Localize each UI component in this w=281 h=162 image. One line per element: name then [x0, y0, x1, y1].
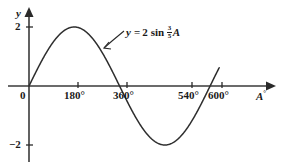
- y-axis-label: y: [16, 8, 21, 19]
- x-axis-degree-symbol: °: [263, 89, 266, 97]
- equation-equals: =: [134, 27, 140, 38]
- fraction-numerator: 3: [167, 25, 173, 32]
- equation-function: sin: [151, 27, 164, 38]
- fraction-denominator: 5: [167, 32, 173, 40]
- x-axis-arrow-icon: [266, 82, 276, 91]
- x-axis-label: A°: [256, 90, 266, 102]
- equation-lhs: y: [126, 27, 131, 38]
- x-tick-label-540: 540°: [178, 90, 199, 101]
- equation-annotation: y = 2 sin 3 5 A: [126, 25, 180, 40]
- sine-graph-figure: y 2 −2 0 180° 360° 540° 600° A° y = 2 si…: [0, 0, 281, 162]
- x-tick-label-600: 600°: [208, 90, 229, 101]
- x-tick-label-180: 180°: [64, 90, 85, 101]
- x-tick-label-360: 360°: [113, 90, 134, 101]
- equation-amplitude: 2: [142, 27, 148, 38]
- y-axis-arrow-icon: [25, 7, 34, 17]
- annotation-leader-line: [104, 31, 124, 48]
- equation-variable: A: [173, 27, 180, 38]
- origin-label: 0: [20, 90, 26, 101]
- y-tick-label-2: 2: [15, 21, 21, 32]
- y-tick-label-minus-2: −2: [9, 139, 21, 150]
- equation-coefficient-fraction: 3 5: [167, 25, 173, 40]
